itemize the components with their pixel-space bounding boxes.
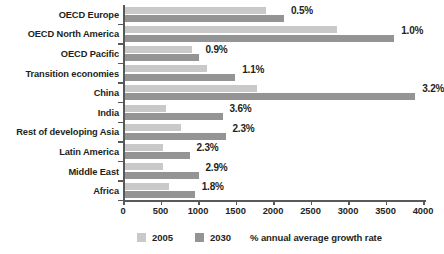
bar-2005: [125, 124, 181, 131]
bar-2030: [125, 152, 190, 159]
category-label: Rest of developing Asia: [16, 127, 119, 137]
category-label: OECD Pacific: [61, 49, 119, 59]
bar-2030: [125, 35, 394, 42]
bar-2005: [125, 144, 163, 151]
x-axis-tick-label: 1000: [188, 206, 209, 216]
chart-legend: 2005 2030 % annual average growth rate: [0, 230, 437, 248]
bar-2030: [125, 113, 223, 120]
growth-rate-label: 1.1%: [242, 63, 264, 74]
x-axis-tick: [236, 200, 238, 205]
x-axis-tick-label: 0: [120, 206, 125, 216]
category-label: Middle East: [68, 167, 119, 177]
x-axis: 05001000150020002500300035004000: [123, 200, 425, 222]
category-label: OECD North America: [28, 29, 119, 39]
x-axis-tick: [161, 200, 163, 205]
growth-rate-label: 3.2%: [422, 83, 444, 94]
bar-2030: [125, 133, 226, 140]
category-label: China: [94, 88, 119, 98]
x-axis-tick: [311, 200, 313, 205]
legend-item-2005[interactable]: 2005: [137, 230, 173, 244]
chart-row: Africa1.8%: [0, 181, 437, 201]
x-axis-tick: [348, 200, 350, 205]
bar-group: 0.9%: [125, 46, 437, 63]
bar-group: 2.9%: [125, 163, 437, 180]
x-axis-tick-label: 2000: [263, 206, 284, 216]
legend-note-growth-rate: % annual average growth rate: [250, 230, 382, 244]
bar-2005: [125, 163, 163, 170]
category-label: Latin America: [59, 147, 119, 157]
x-axis-tick-label: 2500: [300, 206, 321, 216]
bar-group: 1.0%: [125, 26, 437, 43]
legend-label-2005: 2005: [152, 232, 173, 243]
bar-2030: [125, 172, 199, 179]
chart-row: OECD Pacific0.9%: [0, 44, 437, 64]
bar-group: 2.3%: [125, 124, 437, 141]
growth-rate-label: 1.0%: [401, 24, 423, 35]
chart-rows: OECD Europe0.5%OECD North America1.0%OEC…: [0, 0, 437, 196]
chart-row: Rest of developing Asia2.3%: [0, 123, 437, 143]
x-axis-tick-label: 500: [153, 206, 169, 216]
bar-2005: [125, 65, 207, 72]
growth-rate-label: 2.3%: [197, 142, 219, 153]
chart-row: Transition economies1.1%: [0, 64, 437, 84]
x-axis-tick: [423, 200, 425, 205]
bar-2005: [125, 26, 337, 33]
bar-group: 1.8%: [125, 183, 437, 200]
legend-swatch-2030: [195, 233, 204, 242]
chart-row: Latin America2.3%: [0, 142, 437, 162]
x-axis-tick: [273, 200, 275, 205]
category-label: Transition economies: [25, 69, 119, 79]
x-axis-tick-label: 3000: [338, 206, 359, 216]
bar-2030: [125, 191, 195, 198]
growth-rate-label: 2.9%: [206, 161, 228, 172]
legend-label-2030: 2030: [210, 232, 231, 243]
category-label: India: [98, 108, 119, 118]
x-axis-tick: [123, 200, 125, 205]
bar-group: 3.6%: [125, 105, 437, 122]
category-label: Africa: [93, 186, 119, 196]
bar-2005: [125, 85, 257, 92]
bar-2030: [125, 54, 199, 61]
growth-rate-label: 2.3%: [233, 122, 255, 133]
bar-group: 3.2%: [125, 85, 437, 102]
chart-row: OECD Europe0.5%: [0, 5, 437, 25]
growth-rate-label: 0.5%: [291, 5, 313, 16]
growth-rate-label: 0.9%: [206, 44, 228, 55]
bar-2005: [125, 7, 266, 14]
x-axis-tick-label: 3500: [375, 206, 396, 216]
legend-item-2030[interactable]: 2030: [195, 230, 231, 244]
growth-rate-label: 1.8%: [202, 181, 224, 192]
x-axis-tick: [198, 200, 200, 205]
chart-row: Middle East2.9%: [0, 162, 437, 182]
x-axis-tick-label: 1500: [225, 206, 246, 216]
legend-swatch-2005: [137, 233, 146, 242]
x-axis-tick: [386, 200, 388, 205]
category-label: OECD Europe: [59, 10, 119, 20]
bar-2005: [125, 105, 166, 112]
bar-group: 2.3%: [125, 144, 437, 161]
bar-2030: [125, 93, 415, 100]
x-axis-tick-label: 4000: [413, 206, 434, 216]
growth-rate-label: 3.6%: [230, 103, 252, 114]
chart-row: OECD North America1.0%: [0, 25, 437, 45]
bar-group: 1.1%: [125, 65, 437, 82]
bar-2005: [125, 183, 169, 190]
chart-row: China3.2%: [0, 83, 437, 103]
bar-2005: [125, 46, 192, 53]
bar-group: 0.5%: [125, 7, 437, 24]
bar-2030: [125, 15, 284, 22]
chart-row: India3.6%: [0, 103, 437, 123]
bar-2030: [125, 74, 235, 81]
